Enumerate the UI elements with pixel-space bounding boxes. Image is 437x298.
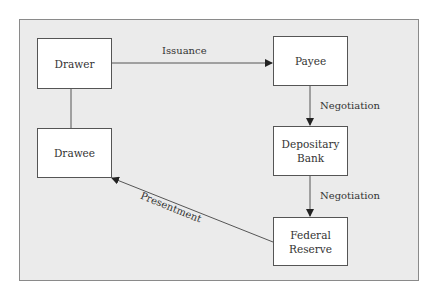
node-label: Drawer [55, 57, 95, 71]
node-label: Bank [297, 151, 324, 165]
edge-label-issuance: Issuance [162, 45, 207, 56]
edge-label-negotiation-1: Negotiation [320, 100, 380, 111]
node-payee: Payee [273, 36, 348, 86]
node-drawee: Drawee [37, 128, 112, 178]
node-label: Reserve [289, 242, 332, 256]
node-label: Payee [295, 54, 326, 68]
edge-label-negotiation-2: Negotiation [320, 190, 380, 201]
node-depositary-bank: Depositary Bank [273, 126, 348, 176]
node-label: Depositary [282, 137, 340, 151]
node-federal-reserve: Federal Reserve [273, 217, 348, 266]
node-drawer: Drawer [37, 38, 112, 89]
node-label: Federal [290, 228, 331, 242]
node-label: Drawee [54, 146, 95, 160]
